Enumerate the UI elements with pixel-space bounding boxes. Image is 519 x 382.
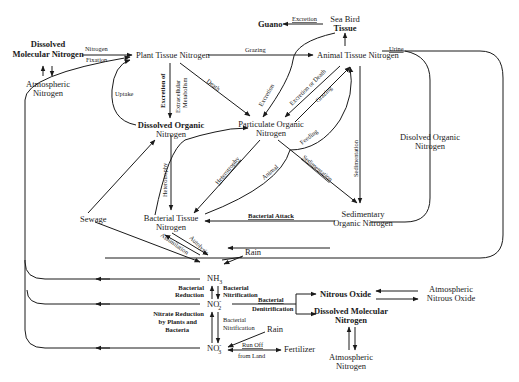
edge-nitrate-reduction-3: Bacteria	[165, 326, 190, 333]
edge-bacterial-nitrification-2a: Bacterial	[223, 316, 246, 323]
node-animal-tissue-nitrogen: Animal Tissue Nitrogen	[317, 50, 399, 60]
node-dissolved-organic-nitrogen-right-2: Nitrogen	[415, 141, 446, 151]
no3-superscript: -	[219, 342, 221, 348]
no3-subscript: 3	[218, 349, 221, 355]
edge-nitrogen-fixation-2: Fixation	[86, 56, 108, 63]
edge-bacterial-denitrification-2: Denitrification	[252, 305, 294, 312]
edge-run-off-1: Run Off	[242, 341, 264, 348]
node-sewage: Sewage	[80, 214, 107, 224]
edge-bacterial-nitrification-1a: Bacterial	[223, 284, 249, 291]
edge-bacterial-attack: Bacterial Attack	[248, 212, 294, 219]
node-no2: NO-2	[207, 298, 221, 311]
no2-superscript: -	[219, 298, 221, 304]
node-dissolved-molecular-nitrogen-top-2: Molecular Nitrogen	[12, 49, 83, 59]
edge-sedimentation-vertical: Sedimentation	[352, 139, 359, 177]
arrow-don-to-particulate	[155, 128, 248, 215]
edge-heterotrophy-diag: Heterotrophy	[213, 154, 241, 185]
edge-urine: Urine	[389, 45, 404, 52]
edge-bacterial-nitrification-2b: Nitrification	[223, 324, 255, 331]
node-bacterial-tissue-nitrogen-2: Nitrogen	[156, 222, 187, 232]
edge-run-off-2: from Land	[238, 352, 266, 359]
edge-bacterial-nitrification-1b: Nitrification	[223, 291, 258, 298]
node-plant-tissue-nitrogen: Plant Tissue Nitrogen	[136, 50, 210, 60]
node-dissolved-organic-nitrogen-left-2: Nitrogen	[156, 129, 187, 139]
node-sedimentary-organic-nitrogen-2: Organic Nitrogen	[333, 218, 393, 228]
edge-bacterial-denitrification-1: Bacterial	[258, 296, 284, 303]
edge-nitrate-reduction-1: Nitrate Reduction	[153, 310, 204, 317]
node-guano: Guano	[258, 19, 283, 29]
edge-excretion-of: Excretion of	[159, 73, 166, 108]
node-atmospheric-nitrogen-top-2: Nitrogen	[33, 88, 64, 98]
arrow-heterotrophy-diag	[194, 140, 260, 213]
arrow-excretion-or-death	[285, 66, 340, 117]
node-fertilizer: Fertilizer	[284, 344, 315, 354]
node-nh3: NH3	[207, 273, 222, 285]
edge-extracellular-1: Extracellular	[174, 79, 181, 113]
arrow-rain-top	[224, 256, 243, 264]
edge-bacterial-reduction-2: Reduction	[175, 291, 204, 298]
edge-sedimentation-diag: Sedimentation	[301, 153, 334, 183]
line-no2-loop	[27, 290, 200, 304]
node-dissolved-molecular-nitrogen-bottom-2: Nitrogen	[335, 315, 367, 325]
edge-heterotrophy-vertical: Heterotrophy	[161, 162, 168, 197]
node-particulate-organic-nitrogen-2: Nitrogen	[256, 128, 287, 138]
edge-nitrogen-fixation-1: Nitrogen	[85, 45, 109, 52]
node-no3: NO-3	[207, 342, 221, 355]
nh3-subscript: 3	[219, 279, 222, 285]
edge-extracellular-2: Metabolism	[181, 77, 188, 108]
node-atmospheric-nitrous-oxide-2: Nitrous Oxide	[427, 293, 476, 303]
edge-bacterial-reduction-1: Bacterial	[178, 284, 204, 291]
no2-subscript: 2	[218, 305, 221, 311]
node-sea-bird-tissue-2: Tissue	[334, 23, 357, 33]
node-rain-bottom: Rain	[267, 324, 284, 334]
nitrogen-cycle-diagram: Dissolved Molecular Nitrogen Atmospheric…	[0, 0, 519, 382]
edge-excretion-guano: Excretion	[292, 15, 318, 22]
node-rain-top: Rain	[245, 247, 262, 257]
edge-uptake: Uptake	[115, 90, 134, 97]
node-atmospheric-nitrogen-bottom-2: Nitrogen	[336, 361, 367, 371]
node-dissolved-molecular-nitrogen-top-1: Dissolved	[31, 39, 66, 49]
arrow-sewage-to-don	[88, 140, 155, 213]
arrow-feeding	[290, 67, 351, 150]
nh3-label: NH	[207, 273, 219, 283]
node-nitrous-oxide: Nitrous Oxide	[320, 289, 371, 299]
edge-nitrate-reduction-2: by Plants and	[159, 318, 198, 325]
edge-death: Death	[205, 77, 222, 92]
edge-grazing-top: Grazing	[245, 46, 266, 53]
